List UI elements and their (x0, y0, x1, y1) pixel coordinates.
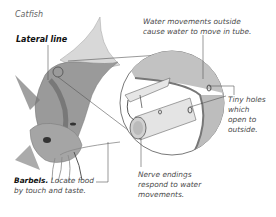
label-barbels: Barbels. Locate food by touch and taste. (14, 176, 94, 196)
label-lateral-line: Lateral line (16, 35, 67, 45)
label-nerve-endings: Nerve endings respond to water movements… (138, 170, 201, 200)
label-water-movements: Water movements outside cause water to m… (143, 17, 251, 37)
label-tiny-holes: Tiny holes which open to outside. (228, 95, 266, 135)
diagram-title: Catfish (15, 10, 43, 19)
